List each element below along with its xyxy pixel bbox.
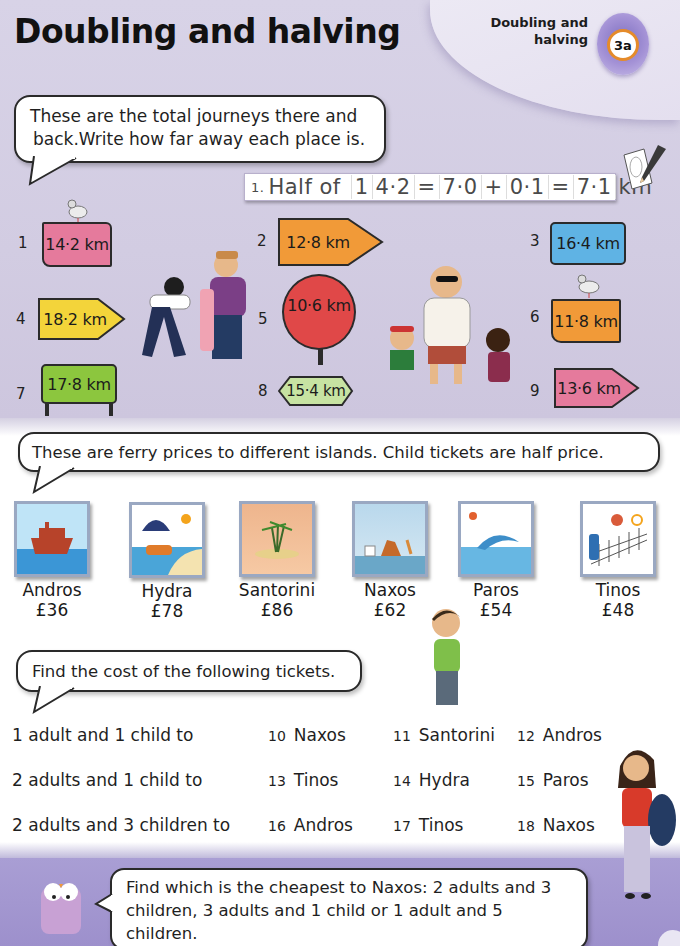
sign-distance: 16·4 km (556, 234, 619, 253)
sign-distance: 17·8 km (47, 375, 110, 394)
pigeon-icon (573, 272, 603, 298)
ticket-row-lead: 1 adult and 1 child to (12, 725, 193, 745)
question-place: Andros (543, 725, 602, 745)
sign-distance: 10·6 km (287, 296, 350, 315)
sign-8-label: 15·4 km (278, 376, 354, 406)
island-name: Naxos (340, 580, 440, 600)
bubble-tail (30, 686, 86, 716)
sign-post (109, 403, 113, 416)
bubble-tail (94, 892, 114, 916)
challenge-bubble: Find which is the cheapest to Naxos: 2 a… (110, 868, 588, 946)
sign-distance: 11·8 km (554, 312, 617, 331)
ticket-row-lead: 2 adults and 1 child to (12, 770, 202, 790)
example-cell: 7·0 (439, 175, 481, 199)
distance-sign-1: 14·2 km (42, 222, 112, 267)
island-name: Tinos (568, 580, 668, 600)
example-cell: = (414, 175, 439, 199)
pencil-paper-icon (622, 143, 672, 193)
unit-badge: 3a (607, 29, 639, 61)
bubble-tail (30, 466, 86, 496)
example-cell: 1 (351, 175, 372, 199)
question-place: Hydra (419, 770, 470, 790)
worked-example: 1. Half of 1 4·2 = 7·0 + 0·1 = 7·1 km (244, 173, 616, 201)
question-place: Naxos (543, 815, 595, 835)
unit-label-line1: Doubling and (490, 14, 588, 31)
distance-sign-5: 10·6 km (282, 274, 356, 350)
page-title: Doubling and halving (14, 12, 400, 51)
island-card-paros: Paros £54 (446, 501, 546, 621)
ticket-row-lead: 2 adults and 3 children to (12, 815, 230, 835)
beach-umbrella-icon (129, 502, 205, 578)
question-place: Santorini (419, 725, 495, 745)
question-number: 12 (517, 728, 535, 744)
question-place: Naxos (294, 725, 346, 745)
example-cell: = (548, 175, 573, 199)
island-price: £78 (117, 601, 217, 622)
boat-icon (14, 501, 90, 577)
island-name: Andros (2, 580, 102, 600)
question-number: 17 (393, 818, 411, 834)
ticket-question-18: 18Naxos (517, 815, 595, 835)
sign-number: 7 (16, 385, 26, 403)
question-number: 14 (393, 773, 411, 789)
tourists-illustration (130, 245, 260, 375)
ticket-question-17: 17Tinos (393, 815, 463, 835)
ticket-question-16: 16Andros (268, 815, 353, 835)
example-cell: 4·2 (372, 175, 414, 199)
pigeon-icon (64, 198, 90, 220)
island-card-tinos: Tinos £48 (568, 501, 668, 621)
sign-number: 3 (530, 232, 540, 250)
island-name: Paros (446, 580, 546, 600)
boy-illustration (424, 605, 474, 709)
question-number: 10 (268, 728, 286, 744)
challenge-line1: Find which is the cheapest to Naxos: 2 a… (126, 876, 572, 899)
sign-number: 8 (258, 382, 268, 400)
example-cell: 7·1 (573, 175, 615, 199)
question-place: Paros (543, 770, 589, 790)
ferry-instruction: These are ferry prices to different isla… (32, 443, 604, 462)
sign-number: 1 (18, 234, 28, 252)
instruction-line1: These are the total journeys there and (30, 105, 370, 128)
island-card-hydra: Hydra £78 (117, 502, 217, 622)
island-price: £86 (227, 600, 327, 621)
distance-sign-3: 16·4 km (550, 222, 626, 265)
distance-sign-6: 11·8 km (551, 299, 621, 343)
island-price: £48 (568, 600, 668, 621)
unit-label-line2: halving (490, 31, 588, 48)
challenge-line2: children, 3 adults and 1 child or 1 adul… (126, 899, 572, 945)
sign-distance: 14·2 km (45, 235, 108, 254)
ferry-instruction-bubble: These are ferry prices to different isla… (18, 432, 660, 472)
dolphin-icon (458, 501, 534, 577)
question-number: 15 (517, 773, 535, 789)
family-illustration (368, 260, 528, 390)
question-number: 11 (393, 728, 411, 744)
ticket-question-10: 10Naxos (268, 725, 346, 745)
island-card-santorini: Santorini £86 (227, 501, 327, 621)
island-card-naxos: Naxos £62 (340, 501, 440, 621)
distance-sign-7: 17·8 km (41, 364, 117, 404)
tickets-instruction: Find the cost of the following tickets. (32, 662, 335, 681)
question-number: 18 (517, 818, 535, 834)
ticket-question-13: 13Tinos (268, 770, 338, 790)
bubble-tail (26, 156, 86, 188)
ticket-question-15: 15Paros (517, 770, 589, 790)
sign-post (45, 403, 49, 416)
island-card-andros: Andros £36 (2, 501, 102, 621)
ticket-question-12: 12Andros (517, 725, 602, 745)
sign-number: 4 (16, 310, 26, 328)
example-cell: 0·1 (506, 175, 548, 199)
unit-label: Doubling and halving (490, 14, 588, 48)
island-name: Hydra (117, 581, 217, 601)
ticket-question-14: 14Hydra (393, 770, 470, 790)
sign-4-label: 18·2 km (42, 298, 108, 340)
palm-island-icon (239, 501, 315, 577)
sign-9-label: 13·6 km (556, 368, 622, 408)
ticket-question-11: 11Santorini (393, 725, 495, 745)
island-price: £36 (2, 600, 102, 621)
instruction-line2: back.Write how far away each place is. (30, 128, 370, 151)
journeys-section (0, 0, 680, 418)
sandcastle-icon (352, 501, 428, 577)
example-cell: + (481, 175, 506, 199)
question-number: 13 (268, 773, 286, 789)
worksheet-page: Doubling and halving Doubling and halvin… (0, 0, 680, 946)
